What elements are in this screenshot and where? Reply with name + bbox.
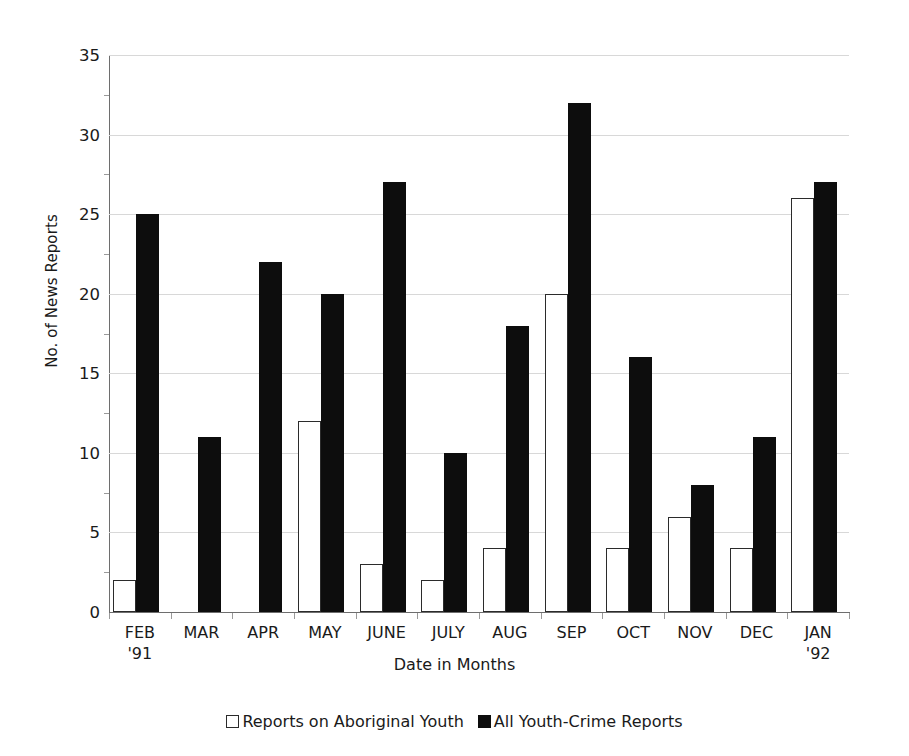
bar-aboriginal-youth bbox=[791, 198, 814, 612]
x-axis-tick bbox=[356, 613, 357, 619]
legend-entry: All Youth-Crime Reports bbox=[478, 712, 683, 731]
y-axis-tick-label: 15 bbox=[54, 364, 100, 383]
x-tick-month: DEC bbox=[740, 623, 774, 642]
x-axis-title: Date in Months bbox=[0, 655, 909, 674]
bar-all-youth-crime bbox=[321, 294, 344, 612]
bar-aboriginal-youth bbox=[298, 421, 321, 612]
bar-group bbox=[787, 55, 849, 612]
x-axis-tick bbox=[602, 613, 603, 619]
x-tick-month: JUNE bbox=[367, 623, 406, 642]
bar-chart: No. of News Reports 05101520253035 FEB'9… bbox=[0, 0, 909, 756]
plot-area bbox=[109, 55, 849, 612]
x-axis-tick bbox=[232, 613, 233, 619]
bar-aboriginal-youth bbox=[668, 517, 691, 612]
x-axis-tick bbox=[479, 613, 480, 619]
open-square-icon bbox=[226, 715, 239, 728]
x-tick-month: FEB bbox=[125, 623, 155, 642]
x-tick-month: OCT bbox=[616, 623, 650, 642]
bar-all-youth-crime bbox=[691, 485, 714, 612]
bar-all-youth-crime bbox=[444, 453, 467, 612]
y-axis-tick-label: 25 bbox=[54, 205, 100, 224]
y-axis-tick-label: 0 bbox=[54, 603, 100, 622]
y-axis-tick-label: 30 bbox=[54, 125, 100, 144]
bar-aboriginal-youth bbox=[421, 580, 444, 612]
bar-group bbox=[479, 55, 541, 612]
bar-group bbox=[602, 55, 664, 612]
x-tick-month: NOV bbox=[677, 623, 712, 642]
bar-all-youth-crime bbox=[753, 437, 776, 612]
x-axis-tick bbox=[417, 613, 418, 619]
legend-entry: Reports on Aboriginal Youth bbox=[226, 712, 463, 731]
y-axis-tick-labels: 05101520253035 bbox=[44, 55, 100, 612]
bar-group bbox=[417, 55, 479, 612]
y-axis-tick-label: 35 bbox=[54, 46, 100, 65]
x-axis-tick bbox=[726, 613, 727, 619]
y-axis-tick-label: 10 bbox=[54, 443, 100, 462]
y-axis-tick-label: 20 bbox=[54, 284, 100, 303]
bar-group bbox=[356, 55, 418, 612]
x-axis-tick bbox=[171, 613, 172, 619]
x-axis-tick bbox=[664, 613, 665, 619]
bar-all-youth-crime bbox=[629, 357, 652, 612]
chart-legend: Reports on Aboriginal YouthAll Youth-Cri… bbox=[0, 712, 909, 731]
x-tick-month: MAY bbox=[308, 623, 341, 642]
legend-label: Reports on Aboriginal Youth bbox=[242, 712, 463, 731]
bar-all-youth-crime bbox=[814, 182, 837, 612]
bar-group bbox=[664, 55, 726, 612]
bar-all-youth-crime bbox=[383, 182, 406, 612]
legend-label: All Youth-Crime Reports bbox=[494, 712, 683, 731]
bar-group bbox=[726, 55, 788, 612]
bar-group bbox=[294, 55, 356, 612]
bar-group bbox=[109, 55, 171, 612]
x-tick-month: JAN bbox=[804, 623, 831, 642]
bar-all-youth-crime bbox=[568, 103, 591, 612]
bar-all-youth-crime bbox=[506, 326, 529, 612]
y-axis-tick-label: 5 bbox=[54, 523, 100, 542]
x-axis-tick bbox=[109, 613, 110, 619]
bar-aboriginal-youth bbox=[606, 548, 629, 612]
x-axis-tick bbox=[294, 613, 295, 619]
x-tick-month: APR bbox=[247, 623, 279, 642]
x-axis-tick bbox=[787, 613, 788, 619]
bar-all-youth-crime bbox=[259, 262, 282, 612]
bar-aboriginal-youth bbox=[113, 580, 136, 612]
x-tick-month: AUG bbox=[492, 623, 527, 642]
bar-aboriginal-youth bbox=[545, 294, 568, 612]
bar-all-youth-crime bbox=[198, 437, 221, 612]
bar-aboriginal-youth bbox=[730, 548, 753, 612]
bar-group bbox=[232, 55, 294, 612]
bar-all-youth-crime bbox=[136, 214, 159, 612]
x-axis-tick bbox=[541, 613, 542, 619]
bar-aboriginal-youth bbox=[483, 548, 506, 612]
filled-square-icon bbox=[478, 715, 491, 728]
x-tick-month: JULY bbox=[432, 623, 465, 642]
x-tick-month: MAR bbox=[184, 623, 220, 642]
bar-group bbox=[171, 55, 233, 612]
bar-aboriginal-youth bbox=[360, 564, 383, 612]
bar-group bbox=[541, 55, 603, 612]
x-axis-tick bbox=[849, 613, 850, 619]
x-tick-month: SEP bbox=[557, 623, 587, 642]
